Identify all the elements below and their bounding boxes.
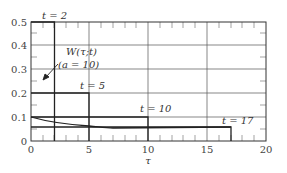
- x-tick: 5: [86, 144, 92, 155]
- label-t17: t = 17: [222, 115, 254, 126]
- x-tick: 0: [28, 144, 34, 155]
- y-tick: 0.4: [11, 40, 27, 51]
- label-w: W(τ;t): [66, 46, 97, 57]
- chart: t = 2 W(τ;t) (a = 10) t = 5 t = 10 t = 1…: [0, 0, 287, 173]
- arrow-icon: [43, 64, 58, 80]
- label-t10: t = 10: [140, 103, 172, 114]
- y-tick: 0: [21, 136, 27, 147]
- x-tick: 20: [260, 144, 273, 155]
- x-tick: 15: [201, 144, 214, 155]
- x-axis-label: τ: [145, 155, 151, 166]
- rect-t17: [31, 127, 231, 141]
- label-a: (a = 10): [58, 59, 99, 70]
- rect-t2: [31, 22, 55, 141]
- y-tick: 0.3: [11, 64, 27, 75]
- y-tick: 0.2: [11, 88, 27, 99]
- label-t5: t = 5: [80, 80, 105, 91]
- x-tick: 10: [142, 144, 155, 155]
- label-t2: t = 2: [42, 10, 67, 21]
- y-tick: 0.1: [11, 112, 27, 123]
- y-tick: 0.5: [11, 17, 27, 28]
